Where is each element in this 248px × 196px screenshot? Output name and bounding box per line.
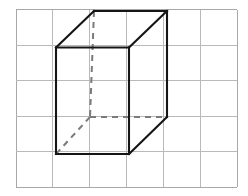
figure-container [0,0,248,196]
cube-figure-svg [0,0,248,196]
figure-background [0,0,248,196]
